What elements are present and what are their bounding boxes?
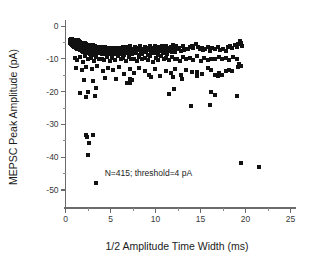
data-point (82, 78, 86, 82)
plot-annotation: N=415; threshold=4 pA (105, 168, 193, 178)
data-point (224, 56, 228, 60)
data-point (85, 135, 89, 139)
data-point (91, 79, 95, 83)
data-point (179, 73, 183, 77)
data-point (209, 90, 213, 94)
data-point (206, 58, 210, 62)
data-point (217, 55, 221, 59)
data-point (235, 94, 239, 98)
data-point (80, 68, 84, 72)
data-point (191, 46, 195, 50)
data-point (184, 57, 188, 61)
data-point (91, 133, 95, 137)
data-point (190, 70, 194, 74)
data-point (206, 45, 210, 49)
data-point (208, 103, 212, 107)
x-tick-label: 25 (286, 214, 296, 224)
data-point (102, 58, 106, 62)
data-point (122, 72, 126, 76)
y-tick-label: -20 (46, 87, 59, 97)
data-point (188, 56, 192, 60)
data-point (191, 58, 195, 62)
y-axis-ticks (61, 26, 66, 190)
data-point (151, 60, 155, 64)
data-point (149, 75, 153, 79)
data-point (106, 66, 110, 70)
y-axis-tick-labels: 0-10-20-30-40-50 (46, 21, 59, 195)
data-point (130, 78, 134, 82)
data-point (90, 67, 94, 71)
data-point (199, 59, 203, 63)
data-point (216, 74, 220, 78)
data-point (117, 65, 121, 69)
scatter-plot-figure: 0-10-20-30-40-50 0510152025 1/2 Amplitud… (0, 0, 312, 259)
data-point (230, 69, 234, 73)
data-point (74, 66, 78, 70)
data-point (113, 58, 117, 62)
data-point (143, 69, 147, 73)
data-point (132, 71, 136, 75)
data-point (236, 65, 240, 69)
data-point (167, 92, 171, 96)
data-point (231, 55, 235, 59)
x-tick-label: 5 (108, 214, 113, 224)
data-point (195, 70, 199, 74)
data-point (184, 68, 188, 72)
data-point (178, 59, 182, 63)
y-axis-title: MEPSC Peak Amplitude (pA) (7, 49, 19, 185)
data-point (189, 104, 193, 108)
data-point (86, 90, 90, 94)
data-point (94, 86, 98, 90)
data-point (101, 69, 105, 73)
data-point (87, 141, 91, 145)
y-tick-label: -30 (46, 119, 59, 129)
plot-canvas: 0-10-20-30-40-50 0510152025 1/2 Amplitud… (0, 0, 312, 259)
data-point (171, 75, 175, 79)
data-point (146, 58, 150, 62)
x-axis-tick-labels: 0510152025 (63, 214, 295, 224)
data-point (213, 57, 217, 61)
data-point (195, 74, 199, 78)
data-point (239, 161, 243, 165)
data-point-markers (68, 37, 261, 186)
data-point (181, 55, 185, 59)
y-tick-label: -10 (46, 54, 59, 64)
x-tick-label: 15 (196, 214, 206, 224)
data-point (213, 93, 217, 97)
data-point (84, 65, 88, 69)
data-point (206, 66, 210, 70)
data-point (128, 67, 132, 71)
data-point (240, 44, 244, 48)
data-point (181, 44, 185, 48)
data-point (158, 74, 162, 78)
y-tick-label: 0 (54, 21, 59, 31)
data-point (84, 95, 88, 99)
data-point (93, 94, 97, 98)
data-point (169, 71, 173, 75)
data-point (111, 68, 115, 72)
data-point (108, 59, 112, 63)
data-point (105, 55, 109, 59)
data-point (164, 69, 168, 73)
data-point (224, 49, 228, 53)
data-point (200, 72, 204, 76)
data-point (220, 57, 224, 61)
data-point (92, 59, 96, 63)
data-point (235, 57, 239, 61)
x-axis-ticks (66, 208, 291, 213)
data-point (220, 73, 224, 77)
data-point (94, 181, 98, 185)
data-point (78, 91, 82, 95)
data-point (86, 153, 90, 157)
data-point (125, 81, 129, 85)
data-point (239, 64, 243, 68)
data-point (224, 69, 228, 73)
data-point (95, 64, 99, 68)
data-point (257, 165, 261, 169)
data-point (202, 56, 206, 60)
x-tick-label: 0 (63, 214, 68, 224)
data-point (114, 77, 118, 81)
x-axis-title: 1/2 Amplitude Time Width (ms) (106, 240, 249, 252)
data-point (172, 87, 176, 91)
data-point (167, 58, 171, 62)
